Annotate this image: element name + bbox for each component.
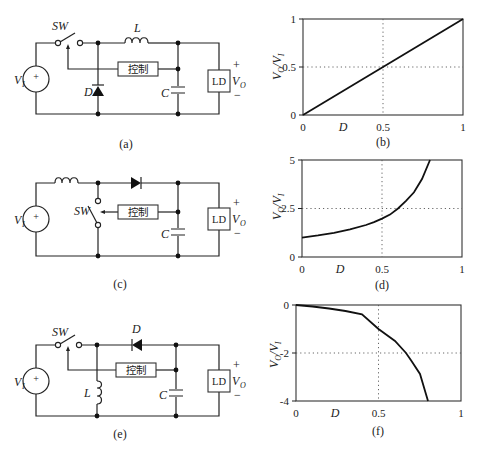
- svg-text:VO/VI: VO/VI: [270, 193, 286, 220]
- capacitor: [171, 229, 185, 235]
- plot-boost: 5 2.5 0 0 0.5 1 D VO/VI (d): [270, 154, 465, 292]
- plot-buck-boost: 0 -2 -4 0 0.5 1 D VO/VI (f): [267, 299, 464, 438]
- inductor: [125, 38, 148, 43]
- ytick: 1: [291, 13, 297, 25]
- caption-f: (f): [372, 424, 384, 438]
- switch-label: SW: [74, 204, 91, 218]
- output-voltage-sub: O: [240, 381, 246, 390]
- inductor-label: L: [133, 21, 141, 35]
- xtick: 0: [300, 121, 306, 133]
- x-axis-label: D: [335, 262, 345, 276]
- capacitor-label: C: [161, 227, 170, 241]
- ytick: -4: [280, 395, 290, 407]
- voltage-source: +: [23, 206, 49, 232]
- switch: [55, 33, 82, 49]
- load-label: LD: [212, 376, 226, 387]
- voltage-source: +: [23, 368, 49, 394]
- output-voltage-sub: O: [240, 219, 246, 228]
- xtick: 0.5: [375, 263, 389, 275]
- output-minus: −: [234, 226, 241, 240]
- xtick: 0: [293, 407, 299, 419]
- output-minus: −: [234, 388, 241, 402]
- y-axis-label: VO/VI: [270, 53, 286, 80]
- circuit-buck: SW L D C 控制 LD + V O − + V I: [14, 19, 246, 151]
- caption-e: (e): [113, 427, 126, 441]
- output-plus: +: [233, 58, 240, 72]
- caption-c: (c): [113, 277, 126, 291]
- control-label: 控制: [126, 364, 146, 376]
- control-arrow-icon: [100, 210, 105, 214]
- diode-label: D: [83, 85, 93, 99]
- output-plus: +: [233, 358, 240, 372]
- capacitor: [169, 390, 183, 396]
- x-axis-label: D: [338, 120, 348, 134]
- circuit-boost: SW C 控制 LD + V O − + V I (c): [14, 177, 246, 291]
- control-arrow-icon: [66, 346, 70, 351]
- capacitor: [171, 87, 185, 93]
- caption-d: (d): [375, 278, 389, 292]
- load-label: LD: [212, 214, 226, 225]
- load-label: LD: [212, 76, 226, 87]
- source-plus: +: [33, 373, 39, 384]
- xtick: 1: [460, 121, 466, 133]
- control-arrow-icon: [66, 44, 70, 49]
- diode-label: D: [131, 322, 141, 336]
- output-minus: −: [234, 88, 241, 102]
- xtick: 0.5: [376, 121, 390, 133]
- converter-figure: SW L D C 控制 LD + V O − + V I: [0, 0, 479, 451]
- capacitor-label: C: [161, 86, 170, 100]
- caption-b: (b): [376, 135, 390, 149]
- xtick: 1: [458, 407, 464, 419]
- circuit-buck-boost: SW D L C 控制 LD + V O − + V I (e): [14, 322, 246, 441]
- inductor: [97, 381, 102, 404]
- x-axis-label: D: [330, 406, 340, 420]
- diode: [131, 177, 141, 189]
- source-plus: +: [33, 211, 39, 222]
- control-label: 控制: [128, 206, 148, 218]
- input-voltage-sub: I: [21, 80, 25, 89]
- inductor: [55, 178, 78, 183]
- y-axis-label: VO/VI: [270, 193, 286, 220]
- xtick: 1: [459, 263, 465, 275]
- plot-frame: [296, 305, 461, 401]
- curve: [296, 305, 428, 401]
- xtick: 0.5: [372, 407, 386, 419]
- input-voltage-sub: I: [21, 220, 25, 229]
- output-voltage-sub: O: [240, 81, 246, 90]
- y-axis-label: VO/VI: [267, 341, 283, 368]
- curve: [302, 160, 430, 238]
- svg-text:VO/VI: VO/VI: [267, 341, 283, 368]
- plot-buck: 1 0.5 0 0 0.5 1 D VO/VI (b): [270, 13, 466, 149]
- voltage-source: +: [23, 66, 49, 92]
- ytick: 0: [284, 299, 290, 311]
- diode: [132, 339, 142, 351]
- input-voltage-sub: I: [21, 382, 25, 391]
- switch-label: SW: [52, 325, 69, 339]
- inductor-label: L: [83, 386, 91, 400]
- output-plus: +: [233, 196, 240, 210]
- xtick: 0: [299, 263, 305, 275]
- diode: [92, 85, 104, 96]
- control-label: 控制: [128, 63, 148, 75]
- source-plus: +: [33, 71, 39, 82]
- ytick: 0: [291, 109, 297, 121]
- caption-a: (a): [119, 137, 132, 151]
- ytick: 5: [290, 154, 296, 166]
- curve: [303, 19, 463, 115]
- svg-text:VO/VI: VO/VI: [270, 53, 286, 80]
- ytick: 0: [290, 251, 296, 263]
- capacitor-label: C: [159, 388, 168, 402]
- switch-label: SW: [52, 19, 69, 33]
